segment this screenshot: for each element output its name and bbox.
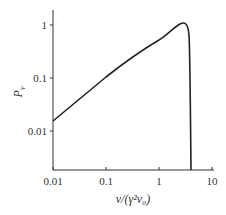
y-tick-label: 0.1 [33,72,47,84]
y-axis-label: Pν [11,86,27,98]
y-label-sub: ν [18,86,27,90]
x-tick-label: 0.01 [43,175,62,187]
x-tick-label: 0.1 [99,175,113,187]
y-tick-label: 1 [42,19,48,31]
y-tick-label: 0.01 [28,125,47,137]
x-tick-label: 1 [156,175,162,187]
chart: 1 0.1 0.01 0.01 0.1 1 10 ν/(γ²ν₀) Pν [0,0,226,215]
x-axis-label: ν/(γ²ν₀) [116,192,150,206]
spectrum-curve [53,23,191,170]
svg-text:Pν: Pν [11,86,27,98]
artifact-dot [62,15,63,16]
x-tick-label: 10 [207,175,219,187]
